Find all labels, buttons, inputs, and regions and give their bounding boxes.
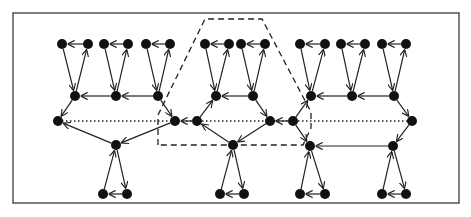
- edge-b1a-l1: [104, 150, 114, 189]
- edge-h8-t8b: [395, 49, 405, 91]
- edge-l4-b4b: [394, 151, 404, 189]
- node-t8a: [377, 39, 387, 49]
- edge-t5a-h5: [242, 49, 252, 91]
- edge-m5-l3: [296, 125, 307, 141]
- edge-l2-m3: [202, 124, 229, 142]
- edge-m3-h4: [200, 100, 213, 117]
- node-h3: [153, 91, 163, 101]
- node-t6a: [295, 39, 305, 49]
- node-l3: [305, 141, 315, 151]
- edge-h5-m4: [256, 100, 267, 116]
- node-b4a: [377, 189, 387, 199]
- node-b3b: [320, 189, 330, 199]
- node-h7: [347, 91, 357, 101]
- edge-h6-t6b: [312, 49, 323, 91]
- edge-t2a-h2: [105, 49, 115, 91]
- node-b2a: [215, 189, 225, 199]
- node-m2: [170, 116, 180, 126]
- node-t7b: [360, 39, 370, 49]
- node-t1b: [83, 39, 93, 49]
- node-h5: [248, 91, 258, 101]
- node-h4: [211, 91, 221, 101]
- edge-t7a-h7: [342, 49, 351, 91]
- diagram-frame: [13, 13, 459, 203]
- edge-t8a-h8: [383, 49, 393, 91]
- node-t4b: [224, 39, 234, 49]
- edge-h4-t4b: [217, 49, 227, 91]
- node-t2b: [123, 39, 133, 49]
- node-t5b: [260, 39, 270, 49]
- node-t2a: [99, 39, 109, 49]
- edge-l1-b1b: [117, 150, 126, 189]
- node-l4: [388, 141, 398, 151]
- node-l1: [111, 140, 121, 150]
- dashed-region: [158, 19, 311, 145]
- node-b2b: [239, 189, 249, 199]
- edge-m6-l4: [396, 125, 409, 142]
- node-b4b: [401, 189, 411, 199]
- edge-h2-t2b: [117, 49, 127, 91]
- node-t3b: [165, 39, 175, 49]
- edge-l2-b2b: [234, 150, 243, 189]
- graph-diagram: [0, 0, 471, 217]
- edge-h7-t7b: [353, 49, 363, 91]
- edge-t3a-h3: [147, 49, 157, 91]
- node-m6: [407, 116, 417, 126]
- node-h6: [306, 91, 316, 101]
- edge-m2-l1: [121, 123, 170, 143]
- edge-b3a-l3: [301, 151, 309, 189]
- node-h8: [389, 91, 399, 101]
- node-h2: [111, 91, 121, 101]
- node-m4: [265, 116, 275, 126]
- edge-h3-t3b: [159, 49, 169, 91]
- edge-m4-l2: [238, 124, 266, 142]
- node-b1b: [122, 189, 132, 199]
- edge-h1-t1b: [76, 49, 86, 91]
- node-h1: [70, 91, 80, 101]
- node-m5: [288, 116, 298, 126]
- edge-b2a-l2: [221, 150, 231, 189]
- edge-h5-t5b: [254, 49, 264, 91]
- node-b3a: [295, 189, 305, 199]
- dashed-boundary: [158, 19, 311, 145]
- node-t7a: [336, 39, 346, 49]
- edge-h3-m2: [161, 100, 172, 116]
- edge-h8-m6: [397, 100, 409, 116]
- node-t6b: [320, 39, 330, 49]
- edge-t4a-h4: [206, 49, 215, 91]
- node-t3a: [141, 39, 151, 49]
- graph-svg: [0, 0, 471, 217]
- node-t5a: [236, 39, 246, 49]
- edge-h1-m1: [61, 100, 72, 116]
- node-b1a: [98, 189, 108, 199]
- edge-t1a-h1: [63, 49, 73, 91]
- node-l2: [228, 140, 238, 150]
- node-t1a: [57, 39, 67, 49]
- edge-t6a-h6: [301, 49, 310, 91]
- edge-b4a-l4: [383, 151, 392, 189]
- node-m1: [53, 116, 63, 126]
- edge-l1-m1: [63, 123, 111, 143]
- edge-m5-h6: [296, 100, 308, 116]
- edge-l3-b3b: [311, 151, 323, 189]
- node-t4a: [200, 39, 210, 49]
- node-m3: [192, 116, 202, 126]
- node-t8b: [401, 39, 411, 49]
- edges: [61, 44, 409, 194]
